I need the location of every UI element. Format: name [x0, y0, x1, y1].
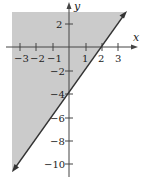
y-axis-label: y: [73, 0, 81, 13]
y-tick-label: −8: [50, 136, 65, 147]
x-tick-label: 1: [82, 53, 88, 64]
x-axis-label: x: [133, 31, 140, 44]
y-tick-label: −2: [50, 66, 65, 77]
inequality-plot: x y −3 −2 −1 1 2 3 2 −2 −4 −6 −8 −10: [0, 0, 142, 177]
x-tick-label: 2: [98, 53, 104, 64]
x-tick-label: −2: [30, 53, 45, 64]
y-tick-label: −10: [44, 159, 65, 170]
y-axis-arrow-icon: [67, 2, 72, 9]
x-tick-label: −3: [14, 53, 29, 64]
y-tick-label: −6: [50, 113, 65, 124]
x-axis-arrow-icon: [131, 45, 138, 50]
x-tick-label: 3: [115, 53, 121, 64]
y-tick-label: 2: [56, 19, 62, 30]
y-tick-label: −4: [50, 89, 65, 100]
x-tick-label: −1: [47, 53, 62, 64]
